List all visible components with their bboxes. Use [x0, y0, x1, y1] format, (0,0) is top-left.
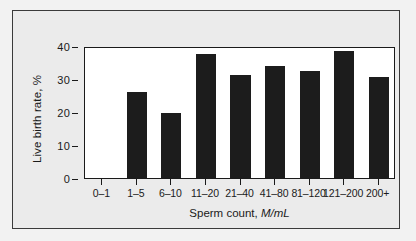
y-tick-mark	[72, 47, 78, 48]
x-tick-label: 6–10	[159, 187, 182, 199]
y-tick-label: 40	[57, 41, 70, 53]
bar	[230, 75, 250, 178]
y-tick-mark	[72, 113, 78, 114]
y-tick-label: 30	[57, 74, 70, 86]
x-tick-label: 0–1	[93, 187, 110, 199]
x-tick-mark	[170, 179, 171, 185]
bar	[196, 54, 216, 178]
y-tick-mark	[72, 179, 78, 180]
bar	[161, 113, 181, 178]
x-tick-mark	[274, 179, 275, 185]
bar-series	[85, 48, 394, 178]
bar	[265, 66, 285, 178]
x-tick-label: 121–200	[323, 187, 363, 199]
x-tick-mark	[205, 179, 206, 185]
x-tick-mark	[309, 179, 310, 185]
x-tick-label: 200+	[366, 187, 389, 199]
x-tick-label: 21–40	[225, 187, 254, 199]
x-axis-title: Sperm count, M/mL	[84, 207, 395, 219]
bar	[369, 77, 389, 178]
x-axis-title-unit: M/mL	[261, 207, 290, 219]
y-tick-label: 10	[57, 140, 70, 152]
x-tick-mark	[101, 179, 102, 185]
bar	[334, 51, 354, 178]
x-tick-mark	[378, 179, 379, 185]
y-tick-mark	[72, 146, 78, 147]
x-axis-title-prefix: Sperm count,	[189, 207, 261, 219]
bar	[300, 71, 320, 178]
y-tick-label: 0	[64, 173, 70, 185]
plot-area	[84, 47, 395, 179]
x-tick-mark	[343, 179, 344, 185]
x-tick-label: 1–5	[127, 187, 144, 199]
y-axis: 010203040	[13, 11, 84, 241]
figure-canvas: 010203040 Live birth rate, % Sperm count…	[0, 0, 416, 241]
x-tick-label: 11–20	[191, 187, 219, 199]
bar	[127, 92, 147, 178]
y-axis-title: Live birth rate, %	[31, 54, 43, 184]
x-tick-label: 41–80	[260, 187, 289, 199]
y-tick-mark	[72, 80, 78, 81]
x-tick-mark	[240, 179, 241, 185]
y-tick-label: 20	[57, 107, 70, 119]
chart-panel: 010203040 Live birth rate, % Sperm count…	[12, 10, 400, 229]
x-tick-mark	[136, 179, 137, 185]
x-tick-label: 81–120	[291, 187, 325, 199]
